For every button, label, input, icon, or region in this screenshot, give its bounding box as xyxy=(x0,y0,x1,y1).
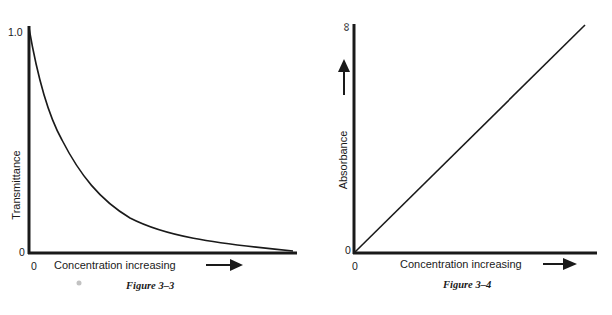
absorbance-line xyxy=(355,25,585,252)
transmittance-curve xyxy=(29,28,293,251)
left-y-label-wrap: Transmittance xyxy=(0,177,66,193)
figure-3-4-plot xyxy=(338,24,597,270)
right-x-origin-tick: 0 xyxy=(352,260,358,272)
right-x-direction-arrow xyxy=(543,258,577,270)
left-x-axis-label: Concentration increasing xyxy=(54,259,176,271)
right-y-bottom-tick: 0 xyxy=(345,244,351,256)
right-y-direction-arrow xyxy=(338,59,350,95)
left-x-direction-arrow xyxy=(206,259,243,271)
figure-3-3-plot xyxy=(28,26,297,271)
right-figure-caption: Figure 3–4 xyxy=(443,279,491,290)
left-y-top-tick: 1.0 xyxy=(8,26,23,38)
left-x-origin-tick: 0 xyxy=(31,260,37,272)
right-y-top-tick-wrap: ∞ xyxy=(341,20,353,34)
right-y-axis-label: Absorbance xyxy=(337,131,349,190)
left-y-axis-label: Transmittance xyxy=(10,150,22,219)
right-y-top-tick: ∞ xyxy=(340,23,354,32)
left-y-bottom-tick: 0 xyxy=(19,246,25,258)
right-x-axis-label: Concentration increasing xyxy=(400,258,522,270)
scan-smudge xyxy=(77,281,82,286)
right-y-label-wrap: Absorbance xyxy=(293,152,393,168)
left-figure-caption: Figure 3–3 xyxy=(126,280,174,291)
